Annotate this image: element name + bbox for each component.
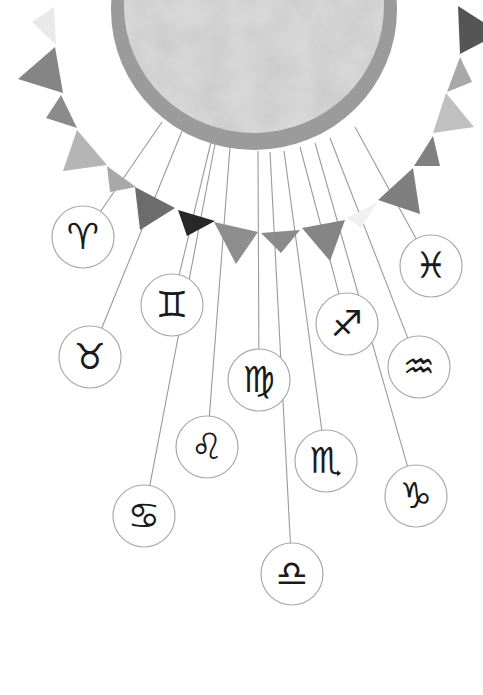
bunting-flag xyxy=(302,220,345,261)
bunting-flag xyxy=(178,210,215,236)
bunting-flag xyxy=(347,202,378,228)
bunting-flag xyxy=(32,7,56,45)
string-virgo xyxy=(258,151,259,349)
bunting-flag xyxy=(214,222,258,264)
bunting-flag xyxy=(433,93,474,133)
medallion-pisces xyxy=(400,235,462,297)
medallion-capricorn xyxy=(385,465,447,527)
zodiac-medallions xyxy=(52,206,462,605)
bunting-flag xyxy=(63,130,107,171)
bunting-flag xyxy=(458,6,483,54)
medallion-cancer xyxy=(113,485,175,547)
medallion-leo xyxy=(176,416,238,478)
medallion-aquarius xyxy=(388,336,450,398)
bunting-flag xyxy=(447,57,472,92)
medallion-gemini xyxy=(141,274,203,336)
medallion-sagittarius xyxy=(316,293,378,355)
bunting-flag xyxy=(46,95,77,128)
string-gemini xyxy=(179,142,211,275)
bunting-flag xyxy=(414,136,440,166)
medallion-aries xyxy=(52,206,114,268)
string-sagittarius xyxy=(300,147,339,294)
medallion-scorpio xyxy=(295,430,357,492)
medallion-libra xyxy=(261,543,323,605)
bunting-flag xyxy=(135,187,175,230)
string-leo xyxy=(209,147,230,416)
bunting-flag xyxy=(18,47,63,93)
bunting-flag xyxy=(261,230,300,253)
medallion-virgo xyxy=(228,349,290,411)
medallion-taurus xyxy=(59,326,121,388)
string-libra xyxy=(270,152,290,543)
zodiac-sun-illustration xyxy=(0,0,483,695)
string-scorpio xyxy=(284,151,322,430)
bunting-flag xyxy=(107,166,136,192)
